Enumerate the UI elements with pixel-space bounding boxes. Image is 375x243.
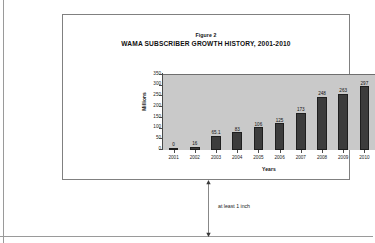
bar-group: 16	[184, 75, 205, 150]
bar-value-label: 16	[192, 141, 197, 146]
plot-area: 01665.183106125173248263297	[163, 74, 375, 150]
x-axis-tick-label: 2010	[353, 155, 375, 160]
x-axis-tick-label: 2002	[184, 155, 206, 160]
bar-group: 65.1	[205, 75, 226, 150]
x-axis-tick-mark	[174, 150, 175, 153]
bar-group: 248	[311, 75, 332, 150]
bar-group: 263	[333, 75, 354, 150]
chart-title: WAMA SUBSCRIBER GROWTH HISTORY, 2001-201…	[63, 40, 349, 47]
x-axis-tick-label: 2008	[311, 155, 333, 160]
x-axis-tick-label: 2006	[269, 155, 291, 160]
x-axis-tick-mark	[195, 150, 196, 153]
x-axis-tick-label: 2003	[205, 155, 227, 160]
bar-value-label: 248	[318, 91, 326, 96]
x-axis-tick-label: 2005	[247, 155, 269, 160]
page-left-margin-line	[3, 0, 4, 243]
x-axis-tick-mark	[301, 150, 302, 153]
y-axis-tick-mark	[159, 74, 162, 75]
y-axis-tick-mark	[159, 85, 162, 86]
page-bottom-margin-line	[0, 236, 373, 237]
bar	[211, 136, 221, 150]
bar-group: 106	[248, 75, 269, 150]
spacing-annotation-label: at least 1 inch	[218, 203, 250, 209]
y-axis-tick-mark	[159, 106, 162, 107]
x-axis-tick-mark	[258, 150, 259, 153]
x-axis-tick-label: 2004	[226, 155, 248, 160]
x-axis-title: Years	[163, 166, 375, 172]
bar-group: 0	[163, 75, 184, 150]
bar	[275, 123, 285, 150]
bar	[254, 127, 264, 150]
bar-value-label: 297	[361, 81, 369, 86]
y-axis-tick-mark	[159, 95, 162, 96]
bar-value-label: 173	[297, 107, 305, 112]
y-axis-tick-mark	[159, 149, 162, 150]
x-axis-tick-label: 2007	[290, 155, 312, 160]
bar-group: 173	[290, 75, 311, 150]
x-axis-tick-mark	[343, 150, 344, 153]
bar	[296, 113, 306, 150]
vertical-double-headed-arrow	[204, 180, 213, 237]
x-axis-tick-mark	[237, 150, 238, 153]
figure-frame: Figure 2 WAMA SUBSCRIBER GROWTH HISTORY,…	[62, 14, 350, 180]
x-axis-tick-mark	[280, 150, 281, 153]
x-axis-tick-mark	[364, 150, 365, 153]
bar-value-label: 125	[276, 118, 284, 123]
bar-value-label: 0	[172, 142, 175, 147]
x-axis-tick-mark	[216, 150, 217, 153]
bar-group: 125	[269, 75, 290, 150]
x-axis-tick-label: 2009	[332, 155, 354, 160]
bar-value-label: 263	[339, 88, 347, 93]
bar-value-label: 83	[235, 127, 240, 132]
bar	[232, 132, 242, 150]
y-axis-tick-mark	[159, 128, 162, 129]
bar-value-label: 65.1	[212, 130, 221, 135]
y-axis-tick-mark	[159, 138, 162, 139]
x-axis-tick-label: 2001	[163, 155, 185, 160]
bar-group: 297	[354, 75, 375, 150]
x-axis-tick-mark	[322, 150, 323, 153]
bar-group: 83	[227, 75, 248, 150]
bar	[317, 97, 327, 150]
bar	[338, 94, 348, 150]
bar	[360, 86, 370, 150]
figure-caption: Figure 2	[63, 32, 349, 38]
bar-value-label: 106	[255, 122, 263, 127]
y-axis-tick-mark	[159, 117, 162, 118]
